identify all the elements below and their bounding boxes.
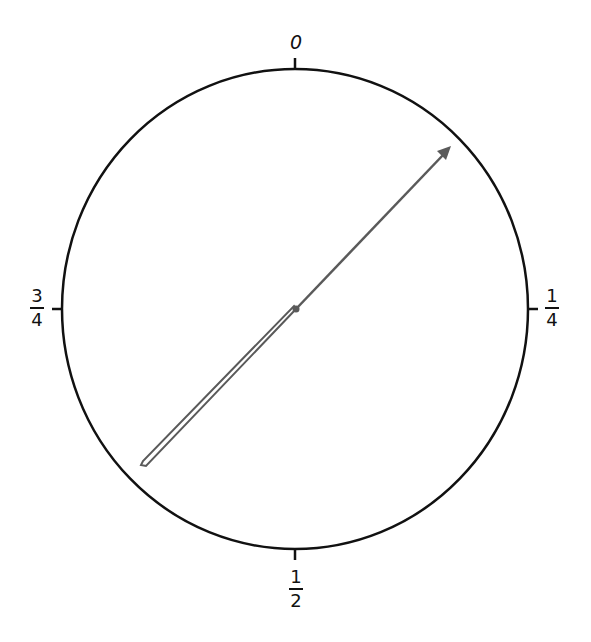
label-left: 3 4 bbox=[25, 287, 49, 329]
label-bottom-denominator: 2 bbox=[290, 592, 301, 610]
label-left-denominator: 4 bbox=[31, 311, 42, 329]
spinner-diagram bbox=[0, 0, 591, 642]
label-right: 1 4 bbox=[540, 287, 564, 329]
arrow-shaft bbox=[296, 154, 444, 309]
label-right-denominator: 4 bbox=[546, 311, 557, 329]
spinner-arrow[interactable] bbox=[141, 146, 451, 466]
pivot-dot bbox=[293, 306, 300, 313]
label-left-numerator: 3 bbox=[31, 287, 42, 305]
arrow-tail bbox=[141, 306, 296, 466]
label-bottom: 1 2 bbox=[284, 568, 308, 610]
label-top: 0 bbox=[284, 31, 308, 53]
label-bottom-numerator: 1 bbox=[290, 568, 301, 586]
label-right-numerator: 1 bbox=[546, 287, 557, 305]
